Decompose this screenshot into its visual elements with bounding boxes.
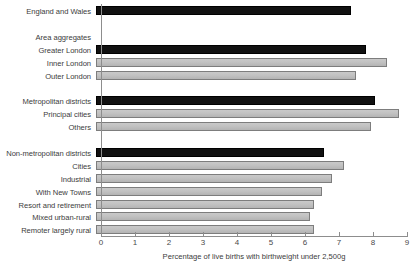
- row-label: Greater London: [0, 46, 96, 55]
- row-label: Others: [0, 123, 96, 132]
- bar: [96, 109, 399, 118]
- row-label: Outer London: [0, 72, 96, 81]
- chart-row: Inner London: [0, 57, 414, 70]
- row-label: Remoter largely rural: [0, 226, 96, 235]
- bar-area: [96, 44, 414, 57]
- bar: [96, 225, 314, 234]
- x-axis-line: [101, 236, 407, 237]
- x-axis-tick-label: 4: [227, 238, 247, 248]
- bar: [96, 122, 371, 131]
- bar: [96, 174, 332, 183]
- chart-row: Industrial: [0, 173, 414, 186]
- bar: [96, 96, 375, 105]
- chart-row: Outer London: [0, 70, 414, 83]
- chart-row: Principal cities: [0, 108, 414, 121]
- x-axis-tick-label: 3: [193, 238, 213, 248]
- row-label: Non-metropolitan districts: [0, 149, 96, 158]
- x-axis-tick: [237, 232, 238, 237]
- bar: [96, 71, 356, 80]
- bar-area: [96, 147, 414, 160]
- x-axis-tick: [373, 232, 374, 237]
- bar-area: [96, 186, 414, 199]
- x-axis-tick-label: 5: [261, 238, 281, 248]
- x-axis-tick: [101, 232, 102, 237]
- chart-row: Metropolitan districts: [0, 95, 414, 108]
- bar-area: [96, 173, 414, 186]
- bar-area: [96, 70, 414, 83]
- bar: [96, 212, 310, 221]
- x-axis-tick-label: 7: [329, 238, 349, 248]
- row-label: Industrial: [0, 175, 96, 184]
- chart-row: Cities: [0, 160, 414, 173]
- x-axis-tick: [407, 232, 408, 237]
- bar-area: [96, 134, 414, 147]
- chart-row: Resort and retirement: [0, 199, 414, 212]
- x-axis-tick: [271, 232, 272, 237]
- bar-area: [96, 82, 414, 95]
- spacer-row: [0, 134, 414, 147]
- chart-row: Greater London: [0, 44, 414, 57]
- chart-row: Mixed urban-rural: [0, 211, 414, 224]
- x-axis-tick-label: 1: [125, 238, 145, 248]
- bar-area: [96, 31, 414, 44]
- bar-area: [96, 121, 414, 134]
- bar-area: [96, 160, 414, 173]
- bar: [96, 187, 322, 196]
- bar-area: [96, 199, 414, 212]
- x-axis-tick: [135, 232, 136, 237]
- bar: [96, 148, 324, 157]
- spacer-row: [0, 82, 414, 95]
- group-heading-row: Area aggregates: [0, 31, 414, 44]
- bar: [96, 200, 314, 209]
- row-label: Mixed urban-rural: [0, 213, 96, 222]
- x-axis-tick: [305, 232, 306, 237]
- row-label: England and Wales: [0, 7, 96, 16]
- bar-area: [96, 18, 414, 31]
- bar: [96, 161, 344, 170]
- row-label: Principal cities: [0, 110, 96, 119]
- row-label: Inner London: [0, 59, 96, 68]
- row-label: Cities: [0, 162, 96, 171]
- x-axis-tick: [203, 232, 204, 237]
- x-axis-title: Percentage of live births with birthweig…: [101, 252, 407, 262]
- bar-area: [96, 5, 414, 18]
- bar: [96, 58, 387, 67]
- bar-area: [96, 211, 414, 224]
- x-axis-tick-label: 2: [159, 238, 179, 248]
- row-label: Area aggregates: [0, 33, 96, 42]
- chart-row: Others: [0, 121, 414, 134]
- bar-chart: England and WalesArea aggregatesGreater …: [0, 0, 414, 265]
- bar-area: [96, 57, 414, 70]
- spacer-row: [0, 18, 414, 31]
- x-axis-tick-label: 9: [397, 238, 414, 248]
- bar: [96, 45, 366, 54]
- x-axis-tick: [169, 232, 170, 237]
- row-label: Resort and retirement: [0, 201, 96, 210]
- bar: [96, 6, 351, 15]
- bar-area: [96, 95, 414, 108]
- x-axis-tick: [339, 232, 340, 237]
- chart-row: England and Wales: [0, 5, 414, 18]
- x-axis-tick-label: 8: [363, 238, 383, 248]
- y-axis-line: [101, 4, 102, 236]
- bar-area: [96, 108, 414, 121]
- x-axis-tick-label: 6: [295, 238, 315, 248]
- chart-row: With New Towns: [0, 186, 414, 199]
- x-axis-tick-label: 0: [91, 238, 111, 248]
- row-label: Metropolitan districts: [0, 97, 96, 106]
- chart-row: Non-metropolitan districts: [0, 147, 414, 160]
- row-label: With New Towns: [0, 188, 96, 197]
